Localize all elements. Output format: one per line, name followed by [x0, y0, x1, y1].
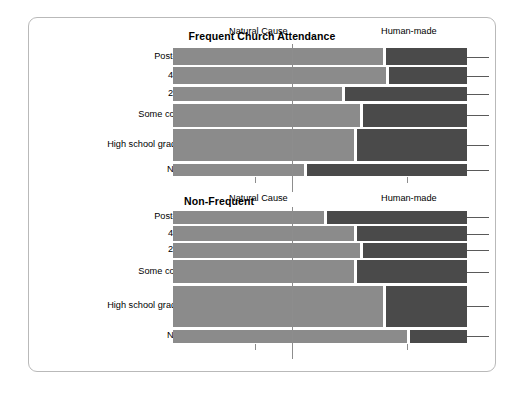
- stacked-bar: [173, 129, 467, 161]
- bar-row: No HS: [29, 164, 495, 176]
- axis-tickmark-human: [407, 344, 408, 350]
- bar-segment-human-made: [357, 129, 467, 161]
- bar-row: Some college: [29, 260, 495, 283]
- axis-tick-right: [467, 336, 489, 337]
- stacked-bar: [173, 87, 467, 101]
- bar-segment-human-made: [307, 164, 467, 176]
- bar-row: Some college: [29, 104, 495, 127]
- bar-row: High school graduate: [29, 129, 495, 161]
- bar-row: 4-year: [29, 226, 495, 240]
- stacked-bar: [173, 330, 467, 343]
- bar-segment-natural-cause: [173, 286, 383, 327]
- stacked-bar: [173, 164, 467, 176]
- axis-label-natural-top: Natural Cause: [229, 26, 288, 36]
- axis-label-human-top: Human-made: [381, 26, 437, 36]
- bar-segment-natural-cause: [173, 164, 304, 176]
- axis-tick-right: [467, 234, 489, 235]
- bar-segment-natural-cause: [173, 48, 383, 65]
- bar-rows-bottom: Post-grad4-year2-yearSome collegeHigh sc…: [29, 211, 495, 343]
- bar-segment-human-made: [327, 211, 467, 224]
- stacked-bar: [173, 67, 467, 84]
- stacked-bar: [173, 286, 467, 327]
- plot-area-top: Post-grad4-year2-yearSome collegeHigh sc…: [29, 48, 495, 176]
- axis-tick-right: [467, 145, 489, 146]
- bar-row: Post-grad: [29, 211, 495, 224]
- panel-non-frequent: Non-Frequent Post-grad4-year2-yearSome c…: [29, 193, 495, 371]
- bar-row: Post-grad: [29, 48, 495, 65]
- bar-segment-human-made: [357, 260, 467, 283]
- stacked-bar: [173, 260, 467, 283]
- bar-row: 2-year: [29, 243, 495, 257]
- bar-segment-natural-cause: [173, 330, 407, 343]
- bar-segment-natural-cause: [173, 226, 354, 240]
- bar-segment-natural-cause: [173, 211, 324, 224]
- stacked-bar: [173, 226, 467, 240]
- bar-segment-natural-cause: [173, 104, 360, 127]
- bar-rows-top: Post-grad4-year2-yearSome collegeHigh sc…: [29, 48, 495, 176]
- stacked-bar: [173, 243, 467, 257]
- bar-segment-human-made: [386, 286, 467, 327]
- bar-segment-human-made: [386, 48, 467, 65]
- axis-tick-right: [467, 76, 489, 77]
- stacked-bar: [173, 48, 467, 65]
- bar-segment-natural-cause: [173, 260, 354, 283]
- bar-row: High school graduate: [29, 286, 495, 327]
- bar-row: No HS: [29, 330, 495, 343]
- axis-tick-right: [467, 306, 489, 307]
- bar-segment-human-made: [345, 87, 467, 101]
- bar-segment-human-made: [363, 104, 467, 127]
- axis-tickmark-human: [407, 177, 408, 183]
- axis-tick-right: [467, 217, 489, 218]
- bar-segment-natural-cause: [173, 243, 360, 257]
- center-gridline-bottom: [292, 207, 293, 359]
- bar-segment-human-made: [389, 67, 467, 84]
- axis-tick-right: [467, 115, 489, 116]
- panel-frequent-church-attendance: Frequent Church Attendance Post-grad4-ye…: [29, 26, 495, 196]
- bar-row: 4-year: [29, 67, 495, 84]
- plot-area-bottom: Post-grad4-year2-yearSome collegeHigh sc…: [29, 211, 495, 343]
- bar-segment-natural-cause: [173, 87, 342, 101]
- axis-tickmark-natural: [255, 177, 256, 183]
- bar-row: 2-year: [29, 87, 495, 101]
- axis-tickmark-natural: [255, 344, 256, 350]
- bar-segment-human-made: [363, 243, 467, 257]
- figure-frame: Frequent Church Attendance Post-grad4-ye…: [28, 17, 496, 372]
- bar-segment-human-made: [357, 226, 467, 240]
- bar-segment-natural-cause: [173, 129, 354, 161]
- bar-segment-natural-cause: [173, 67, 386, 84]
- axis-label-natural-bottom: Natural Cause: [229, 193, 288, 203]
- axis-tick-right: [467, 272, 489, 273]
- stacked-bar: [173, 104, 467, 127]
- center-gridline-top: [292, 44, 293, 192]
- axis-tick-right: [467, 94, 489, 95]
- axis-tick-right: [467, 57, 489, 58]
- stacked-bar: [173, 211, 467, 224]
- axis-label-human-bottom: Human-made: [381, 193, 437, 203]
- axis-tick-right: [467, 170, 489, 171]
- bar-segment-human-made: [410, 330, 467, 343]
- axis-tick-right: [467, 250, 489, 251]
